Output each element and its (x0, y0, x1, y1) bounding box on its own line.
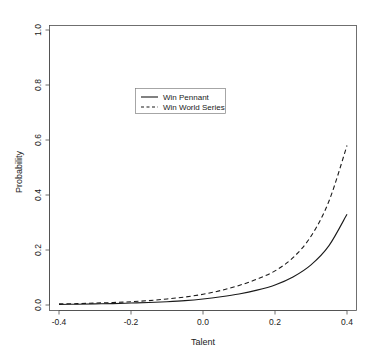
y-tick-label-5: 1.0 (33, 24, 43, 36)
legend-label-win-world-series: Win World Series (163, 103, 225, 112)
y-tick-label-0: 0.0 (33, 299, 43, 311)
x-tick-label-1: -0.2 (124, 317, 139, 327)
y-tick-label-4: 0.8 (33, 79, 43, 91)
probability-vs-talent-line-chart: 0.0 0.2 0.4 0.6 0.8 1.0 Probability -0.4… (0, 0, 383, 362)
legend-label-win-pennant: Win Pennant (163, 93, 210, 102)
x-tick-label-0: -0.4 (52, 317, 67, 327)
chart-figure: 0.0 0.2 0.4 0.6 0.8 1.0 Probability -0.4… (0, 0, 383, 362)
x-tick-label-4: 0.4 (341, 317, 353, 327)
y-tick-label-1: 0.2 (33, 244, 43, 256)
figure-background (0, 0, 383, 362)
y-tick-label-2: 0.4 (33, 189, 43, 201)
x-axis-title: Talent (191, 337, 216, 347)
y-tick-label-3: 0.6 (33, 134, 43, 146)
x-tick-label-2: 0.0 (197, 317, 209, 327)
x-tick-label-3: 0.2 (269, 317, 281, 327)
y-axis-title: Probability (14, 150, 24, 193)
chart-legend: Win Pennant Win World Series (136, 89, 226, 114)
